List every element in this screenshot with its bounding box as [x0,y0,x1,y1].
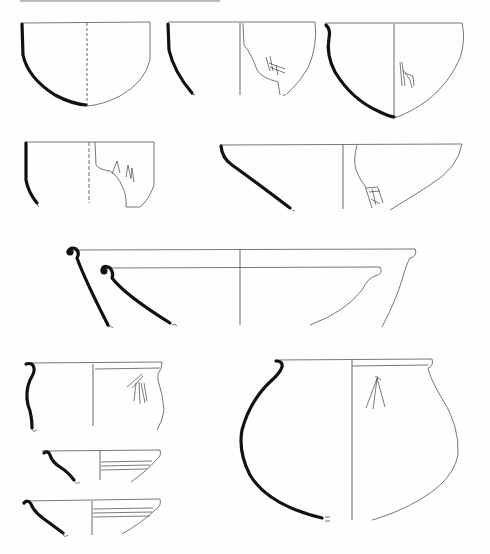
figure-bowl-5 [220,144,462,211]
document-page [0,0,490,554]
figure-bowl-9 [24,499,160,537]
figure-basin-6 [67,248,416,328]
figure-bowl-1 [22,22,150,106]
figure-cup-4 [25,142,154,207]
figure-bowl-3 [326,23,464,118]
figure-bowl-2 [168,22,316,96]
pottery-drawings [0,0,490,554]
figure-jar-7 [26,362,164,432]
figure-jar-10 [241,359,458,521]
figure-bowl-8 [42,450,161,484]
